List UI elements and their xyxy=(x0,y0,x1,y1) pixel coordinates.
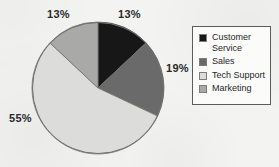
data-label-sales: 19% xyxy=(166,62,189,74)
pie-chart-screenshot: 13% 19% 55% 13% Customer Service Sales T… xyxy=(0,0,279,167)
data-label-customer-service: 13% xyxy=(118,8,141,20)
data-label-marketing: 13% xyxy=(47,8,70,20)
legend-swatch-sales xyxy=(199,58,207,66)
data-label-tech-support: 55% xyxy=(9,112,32,124)
legend-label-sales: Sales xyxy=(212,56,235,67)
chart-legend: Customer Service Sales Tech Support Mark… xyxy=(192,26,271,105)
legend-label-customer-service: Customer Service xyxy=(212,32,268,53)
legend-label-marketing: Marketing xyxy=(212,83,252,94)
legend-swatch-customer-service xyxy=(199,34,207,42)
pie-chart-plot-area xyxy=(31,21,165,155)
legend-item-customer-service: Customer Service xyxy=(199,32,270,53)
pie-chart-svg xyxy=(31,21,165,155)
legend-item-sales: Sales xyxy=(199,56,270,67)
legend-swatch-marketing xyxy=(199,85,207,93)
legend-label-tech-support: Tech Support xyxy=(212,70,265,81)
legend-swatch-tech-support xyxy=(199,72,207,80)
legend-item-marketing: Marketing xyxy=(199,83,270,94)
legend-item-tech-support: Tech Support xyxy=(199,70,270,81)
